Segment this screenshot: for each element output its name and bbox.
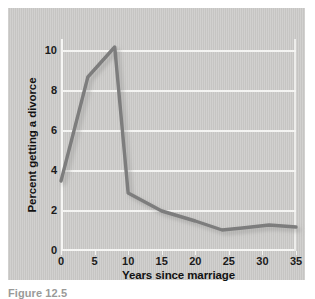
plot-area bbox=[61, 39, 296, 251]
x-tick-label: 30 bbox=[250, 255, 274, 267]
y-tick-label: 8 bbox=[37, 85, 57, 96]
x-tick-label: 10 bbox=[116, 255, 140, 267]
x-tick-label: 0 bbox=[49, 255, 73, 267]
x-tick-label: 35 bbox=[284, 255, 308, 267]
x-axis-title: Years since marriage bbox=[61, 269, 296, 281]
figure-panel: Percent getting a divorce 0246810 051015… bbox=[8, 8, 305, 280]
x-axis-tick-labels: 05101520253035 bbox=[61, 255, 296, 269]
x-tick-label: 15 bbox=[150, 255, 174, 267]
y-axis-tick-labels: 0246810 bbox=[35, 39, 57, 251]
figure-caption: Figure 12.5 bbox=[8, 287, 67, 299]
divorce-rate-line-chart bbox=[61, 39, 296, 251]
y-tick-label: 4 bbox=[37, 165, 57, 176]
x-tick-label: 25 bbox=[217, 255, 241, 267]
x-tick-label: 5 bbox=[83, 255, 107, 267]
y-tick-label: 10 bbox=[37, 45, 57, 56]
data-series-line bbox=[61, 47, 296, 230]
x-tick-label: 20 bbox=[183, 255, 207, 267]
y-tick-label: 6 bbox=[37, 125, 57, 136]
y-tick-label: 2 bbox=[37, 205, 57, 216]
